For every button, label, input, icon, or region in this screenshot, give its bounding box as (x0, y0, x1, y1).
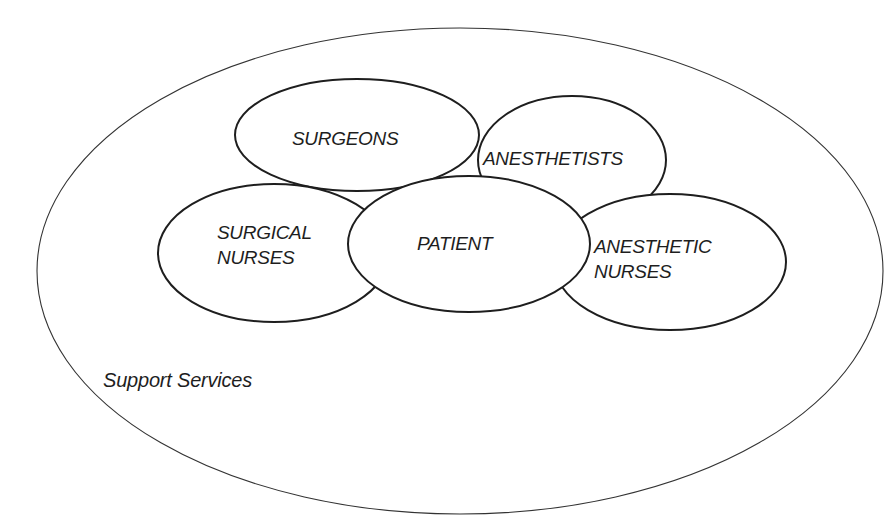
support-services-label: Support Services (103, 368, 252, 393)
surgical-nurses-label: SURGICAL NURSES (217, 220, 312, 270)
anesthetic-nurses-label: ANESTHETIC NURSES (594, 234, 711, 284)
patient-label: PATIENT (417, 231, 492, 256)
surgeons-label: SURGEONS (292, 126, 398, 151)
care-team-diagram: SURGEONS ANESTHETISTS SURGICAL NURSES PA… (0, 0, 890, 523)
diagram-shapes (0, 0, 890, 523)
anesthetists-label: ANESTHETISTS (483, 146, 623, 171)
